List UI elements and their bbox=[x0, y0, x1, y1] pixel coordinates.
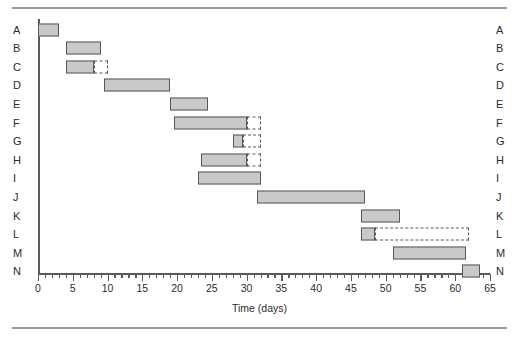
x-tick-minor bbox=[448, 274, 449, 278]
x-tick-minor bbox=[483, 274, 484, 278]
x-tick-minor bbox=[101, 274, 102, 278]
gantt-slack-l bbox=[375, 228, 469, 241]
x-tick-minor bbox=[121, 274, 122, 278]
x-tick-minor bbox=[240, 274, 241, 278]
x-tick-minor bbox=[184, 274, 185, 278]
row-label-left-e: E bbox=[13, 98, 20, 110]
row-label-right-f: F bbox=[496, 117, 503, 129]
x-tick-minor bbox=[330, 274, 331, 278]
x-tick-minor bbox=[205, 274, 206, 278]
gantt-bar-g[interactable] bbox=[233, 135, 243, 148]
gantt-bar-a[interactable] bbox=[38, 23, 59, 36]
row-label-right-g: G bbox=[496, 135, 505, 147]
x-tick-label: 60 bbox=[449, 282, 461, 294]
x-tick-minor bbox=[441, 274, 442, 278]
x-tick-minor bbox=[337, 274, 338, 278]
x-tick-major bbox=[142, 274, 143, 281]
x-tick-minor bbox=[407, 274, 408, 278]
x-axis-title: Time (days) bbox=[0, 302, 519, 314]
gantt-slack-c bbox=[94, 60, 108, 73]
gantt-bar-d[interactable] bbox=[104, 79, 170, 92]
gantt-bar-h[interactable] bbox=[201, 153, 246, 166]
x-tick-minor bbox=[87, 274, 88, 278]
row-label-left-j: J bbox=[13, 191, 19, 203]
x-tick-label: 5 bbox=[70, 282, 76, 294]
gantt-bar-k[interactable] bbox=[361, 209, 399, 222]
row-label-left-b: B bbox=[13, 42, 20, 54]
row-label-right-i: I bbox=[496, 172, 499, 184]
gantt-bar-l[interactable] bbox=[361, 228, 375, 241]
x-tick-minor bbox=[128, 274, 129, 278]
row-label-left-m: M bbox=[13, 247, 22, 259]
x-tick-minor bbox=[170, 274, 171, 278]
row-label-left-h: H bbox=[13, 154, 21, 166]
row-label-left-g: G bbox=[13, 135, 22, 147]
x-tick-minor bbox=[66, 274, 67, 278]
row-label-left-d: D bbox=[13, 79, 21, 91]
row-label-left-c: C bbox=[13, 61, 21, 73]
x-tick-minor bbox=[400, 274, 401, 278]
gantt-bar-b[interactable] bbox=[66, 42, 101, 55]
x-tick-minor bbox=[372, 274, 373, 278]
x-tick-minor bbox=[80, 274, 81, 278]
x-tick-minor bbox=[379, 274, 380, 278]
x-tick-minor bbox=[52, 274, 53, 278]
x-tick-minor bbox=[254, 274, 255, 278]
x-tick-minor bbox=[267, 274, 268, 278]
x-tick-minor bbox=[94, 274, 95, 278]
x-tick-minor bbox=[156, 274, 157, 278]
x-tick-major bbox=[177, 274, 178, 281]
gantt-bar-m[interactable] bbox=[393, 246, 466, 259]
x-tick-label: 15 bbox=[136, 282, 148, 294]
row-label-right-j: J bbox=[496, 191, 502, 203]
x-tick-minor bbox=[393, 274, 394, 278]
gantt-bar-c[interactable] bbox=[66, 60, 94, 73]
x-tick-minor bbox=[149, 274, 150, 278]
x-tick-minor bbox=[427, 274, 428, 278]
x-tick-minor bbox=[414, 274, 415, 278]
x-tick-minor bbox=[261, 274, 262, 278]
x-tick-minor bbox=[358, 274, 359, 278]
x-tick-minor bbox=[295, 274, 296, 278]
gantt-slack-f bbox=[247, 116, 261, 129]
gantt-bar-i[interactable] bbox=[198, 172, 261, 185]
gantt-bar-f[interactable] bbox=[174, 116, 247, 129]
row-label-right-l: L bbox=[496, 228, 502, 240]
x-tick-label: 55 bbox=[415, 282, 427, 294]
x-tick-label: 25 bbox=[206, 282, 218, 294]
x-tick-major bbox=[386, 274, 387, 281]
x-tick-minor bbox=[198, 274, 199, 278]
x-tick-label: 30 bbox=[241, 282, 253, 294]
gantt-bar-n[interactable] bbox=[462, 265, 479, 278]
x-tick-minor bbox=[344, 274, 345, 278]
x-tick-major bbox=[316, 274, 317, 281]
row-label-right-e: E bbox=[496, 98, 503, 110]
x-tick-minor bbox=[434, 274, 435, 278]
gantt-bar-e[interactable] bbox=[170, 97, 208, 110]
gantt-slack-h bbox=[247, 153, 261, 166]
x-tick-major bbox=[247, 274, 248, 281]
x-tick-major bbox=[38, 274, 39, 281]
x-tick-minor bbox=[219, 274, 220, 278]
x-tick-major bbox=[73, 274, 74, 281]
x-tick-major bbox=[108, 274, 109, 281]
x-tick-minor bbox=[45, 274, 46, 278]
x-tick-minor bbox=[288, 274, 289, 278]
x-tick-minor bbox=[226, 274, 227, 278]
x-tick-minor bbox=[365, 274, 366, 278]
x-axis-line bbox=[38, 273, 490, 275]
x-tick-label: 50 bbox=[380, 282, 392, 294]
x-tick-label: 10 bbox=[102, 282, 114, 294]
row-label-left-i: I bbox=[13, 172, 16, 184]
row-label-right-a: A bbox=[496, 24, 503, 36]
x-tick-major bbox=[212, 274, 213, 281]
x-tick-minor bbox=[163, 274, 164, 278]
gantt-chart-figure: 05101520253035404550556065 ABCDEFGHIJKLM… bbox=[0, 0, 519, 337]
gantt-bar-j[interactable] bbox=[257, 190, 365, 203]
row-label-right-h: H bbox=[496, 154, 504, 166]
gantt-slack-g bbox=[243, 135, 260, 148]
row-label-left-a: A bbox=[13, 24, 20, 36]
x-tick-minor bbox=[302, 274, 303, 278]
row-label-right-c: C bbox=[496, 61, 504, 73]
x-tick-major bbox=[420, 274, 421, 281]
